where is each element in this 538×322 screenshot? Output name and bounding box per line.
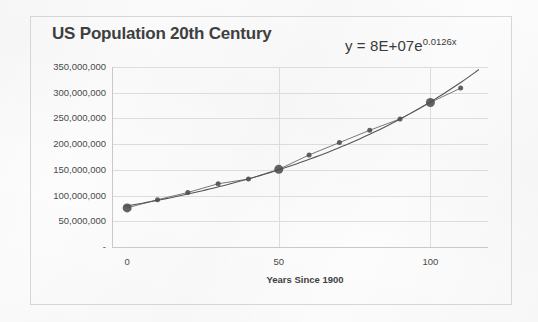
- chart-screenshot: US Population 20th Century y = 8E+07e0.0…: [0, 0, 538, 322]
- y-axis-tick-label: 350,000,000: [20, 61, 106, 72]
- x-axis-title-text: Years Since 1900: [266, 274, 343, 285]
- x-axis-tick-label: 50: [259, 256, 299, 267]
- data-point-marker: [274, 165, 283, 174]
- x-axis-line: [112, 247, 488, 248]
- data-point-marker: [155, 197, 160, 202]
- data-series-plot: [112, 67, 488, 247]
- plot-area: [112, 67, 488, 247]
- y-axis-tick-label: 200,000,000: [20, 138, 106, 149]
- data-point-marker: [246, 177, 251, 182]
- data-point-marker: [185, 190, 190, 195]
- data-point-marker: [123, 203, 132, 212]
- data-point-marker: [398, 116, 403, 121]
- x-axis-tick-label: 100: [410, 256, 450, 267]
- data-point-marker: [367, 128, 372, 133]
- y-axis-tick-label: 150,000,000: [20, 164, 106, 175]
- series-connector-line: [127, 88, 461, 208]
- x-axis-title: Years Since 1900: [0, 274, 538, 285]
- x-axis-tick-label: 0: [107, 256, 147, 267]
- y-axis-tick-label: 50,000,000: [20, 215, 106, 226]
- exponential-trendline: [124, 70, 479, 207]
- data-point-marker: [458, 86, 463, 91]
- data-point-marker: [307, 152, 312, 157]
- y-axis-tick-label: 300,000,000: [20, 87, 106, 98]
- trendline-equation-exponent: 0.0126x: [423, 36, 457, 47]
- y-axis-tick-label: -: [20, 241, 106, 252]
- data-point-marker: [426, 98, 435, 107]
- trendline-equation-base: y = 8E+07e: [345, 37, 423, 54]
- y-axis-tick-label: 100,000,000: [20, 190, 106, 201]
- trendline-equation-annotation: y = 8E+07e0.0126x: [345, 36, 457, 54]
- data-point-marker: [216, 181, 221, 186]
- y-axis-tick-label: 250,000,000: [20, 112, 106, 123]
- data-point-marker: [337, 140, 342, 145]
